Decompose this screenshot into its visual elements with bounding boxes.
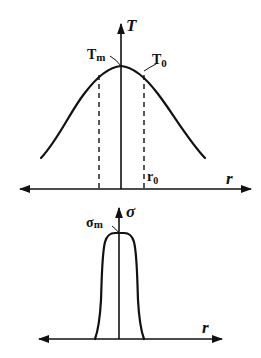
- temperature-curve: [41, 66, 205, 158]
- tm-label: Tm: [87, 47, 106, 63]
- temperature-plot: T Tm T0 r0 r: [20, 16, 251, 189]
- tm-leader-line: [110, 56, 121, 66]
- stress-plot: σ σm r: [39, 202, 222, 339]
- sigma-axis-label: σ: [126, 202, 136, 221]
- temperature-stress-diagram: T Tm T0 r0 r: [0, 0, 261, 358]
- bottom-r-axis-label: r: [202, 318, 209, 337]
- t0-label: T0: [152, 52, 167, 69]
- r0-label: r0: [147, 169, 158, 186]
- sigma-m-label: σm: [86, 215, 103, 230]
- top-r-axis-label: r: [226, 169, 233, 188]
- t-axis-label: T: [126, 16, 137, 35]
